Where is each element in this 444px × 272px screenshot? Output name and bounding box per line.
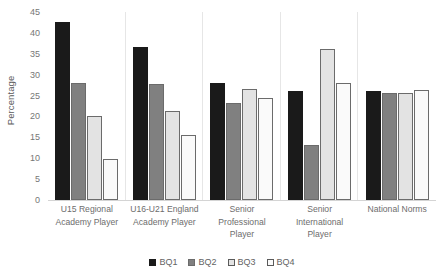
y-axis-tick-20: 20: [30, 111, 40, 121]
plot-wrapper: 051015202530354045: [22, 12, 436, 200]
y-axis-tick-45: 45: [30, 7, 40, 17]
x-axis-category-labels: U15 Regional Academy PlayerU16-U21 Engla…: [48, 203, 436, 247]
bar-bq2[interactable]: [71, 83, 86, 200]
bar-bq4[interactable]: [181, 135, 196, 200]
bar-bq1[interactable]: [133, 47, 148, 200]
y-axis-tick-0: 0: [35, 195, 40, 205]
bar-group: [281, 12, 359, 200]
legend-swatch-icon: [267, 259, 274, 266]
x-axis-label-4: Senior International Player: [281, 203, 359, 247]
bar-groups: [48, 12, 436, 200]
bar-bq2[interactable]: [382, 93, 397, 200]
bar-group: [203, 12, 281, 200]
bar-bq1[interactable]: [288, 91, 303, 200]
y-axis-title: Percentage: [0, 0, 22, 200]
bar-bq4[interactable]: [414, 90, 429, 200]
x-axis-label-5: National Norms: [358, 203, 436, 247]
legend-swatch-icon: [188, 259, 195, 266]
bar-bq4[interactable]: [336, 83, 351, 200]
bar-bq2[interactable]: [226, 103, 241, 200]
x-axis-label-1: U15 Regional Academy Player: [48, 203, 126, 247]
plot-area: [48, 12, 436, 201]
legend-item-bq4[interactable]: BQ4: [267, 257, 295, 267]
bar-bq3[interactable]: [165, 111, 180, 200]
legend-swatch-icon: [228, 259, 235, 266]
bar-group-bars: [358, 12, 436, 200]
bar-bq3[interactable]: [398, 93, 413, 200]
y-axis-tick-30: 30: [30, 70, 40, 80]
legend-label: BQ1: [159, 257, 177, 267]
y-axis-tick-35: 35: [30, 49, 40, 59]
bar-group-bars: [48, 12, 126, 200]
bar-group-bars: [203, 12, 281, 200]
y-axis-tick-40: 40: [30, 28, 40, 38]
bar-group: [358, 12, 436, 200]
bar-bq4[interactable]: [258, 98, 273, 200]
bar-group-bars: [281, 12, 359, 200]
legend-swatch-icon: [149, 259, 156, 266]
bar-group: [48, 12, 126, 200]
y-axis-tick-25: 25: [30, 91, 40, 101]
bar-bq1[interactable]: [366, 91, 381, 200]
legend-item-bq1[interactable]: BQ1: [149, 257, 177, 267]
chart-legend: BQ1BQ2BQ3BQ4: [0, 257, 444, 267]
bar-group: [126, 12, 204, 200]
bar-bq3[interactable]: [87, 116, 102, 200]
bar-bq3[interactable]: [242, 89, 257, 200]
bar-bq4[interactable]: [103, 159, 118, 200]
bar-bq1[interactable]: [55, 22, 70, 200]
bar-bq2[interactable]: [149, 84, 164, 200]
bar-bq1[interactable]: [210, 83, 225, 200]
y-axis-tick-5: 5: [35, 174, 40, 184]
x-axis-label-2: U16-U21 England Academy Player: [126, 203, 204, 247]
y-axis-title-text: Percentage: [6, 75, 17, 125]
bar-bq2[interactable]: [304, 145, 319, 200]
legend-label: BQ4: [277, 257, 295, 267]
legend-label: BQ2: [198, 257, 216, 267]
y-axis-tick-15: 15: [30, 132, 40, 142]
legend-label: BQ3: [238, 257, 256, 267]
bar-chart: Percentage 051015202530354045 U15 Region…: [0, 0, 444, 272]
y-axis-tick-10: 10: [30, 153, 40, 163]
y-axis-tick-labels: 051015202530354045: [22, 12, 44, 200]
legend-item-bq3[interactable]: BQ3: [228, 257, 256, 267]
x-axis-label-3: Senior Professional Player: [203, 203, 281, 247]
legend-item-bq2[interactable]: BQ2: [188, 257, 216, 267]
bar-bq3[interactable]: [320, 49, 335, 200]
bar-group-bars: [126, 12, 204, 200]
